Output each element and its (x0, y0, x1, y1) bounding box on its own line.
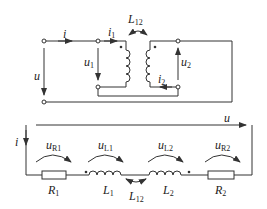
polarity-dot-l1 (85, 171, 88, 174)
secondary-coil (146, 50, 150, 82)
label-R1: R1 (48, 184, 59, 198)
resistor-r1 (42, 171, 66, 179)
label-i2: i2 (158, 73, 165, 87)
top-circuit (42, 31, 232, 104)
label-u: u (34, 70, 40, 82)
label-uL2: uL2 (158, 139, 173, 153)
inductor-l1 (89, 171, 121, 175)
label-L2: L2 (163, 184, 174, 198)
polarity-dot-l2 (188, 171, 191, 174)
arc-uL2 (148, 155, 183, 162)
label-i1: i1 (108, 26, 115, 40)
arc-uR2 (205, 155, 240, 162)
label-R2: R2 (215, 184, 226, 198)
label-i-bottom: i (15, 136, 18, 148)
circuit-diagram (0, 0, 267, 209)
label-i: i (63, 28, 66, 40)
polarity-dot-primary (120, 46, 123, 49)
arc-uR1 (36, 155, 71, 162)
polarity-dot-secondary (154, 46, 157, 49)
label-uR2: uR2 (215, 139, 230, 153)
label-L1: L1 (103, 184, 114, 198)
arc-uL1 (88, 155, 123, 162)
label-L12-top: L12 (128, 13, 143, 27)
label-u1: u1 (84, 56, 94, 70)
bottom-circuit (26, 125, 252, 182)
label-uL1: uL1 (98, 139, 113, 153)
inductor-l2 (149, 171, 181, 175)
label-L12-bottom: L12 (129, 190, 144, 204)
label-u-total: u (224, 112, 230, 124)
resistor-r2 (208, 171, 234, 179)
label-u2: u2 (181, 56, 191, 70)
primary-coil (126, 50, 130, 82)
label-uR1: uR1 (46, 139, 61, 153)
